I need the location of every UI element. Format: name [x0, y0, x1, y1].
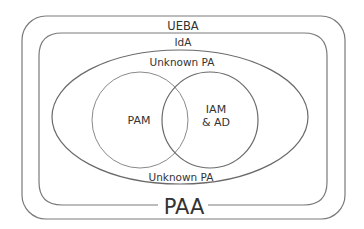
unknown-pa-top-label: Unknown PA	[150, 56, 216, 68]
unknown-pa-ellipse	[52, 50, 308, 184]
venn-diagram: UEBA IdA Unknown PA PAM IAM & AD Unknown…	[0, 0, 364, 229]
unknown-pa-bottom-label: Unknown PA	[149, 171, 215, 183]
ad-label: & AD	[202, 116, 230, 129]
ueba-label: UEBA	[167, 19, 199, 33]
ida-label: IdA	[175, 36, 193, 48]
paa-label: PAA	[164, 195, 205, 219]
pam-label: PAM	[128, 114, 151, 127]
iam-label: IAM	[206, 103, 226, 116]
